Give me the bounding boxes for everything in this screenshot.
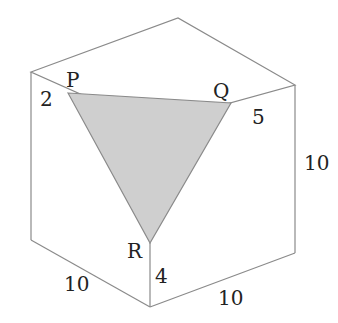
vertex-label-q: Q [213, 79, 229, 103]
vertex-label-p: P [66, 68, 79, 92]
label-right-height: 10 [304, 151, 329, 175]
cube-diagram: P Q R 2 5 4 10 10 10 [0, 0, 338, 323]
label-p-offset: 2 [40, 87, 53, 111]
label-bottom-left-length: 10 [64, 272, 89, 296]
vertex-label-r: R [127, 239, 143, 263]
label-r-offset: 4 [155, 264, 168, 288]
label-q-offset: 5 [252, 105, 265, 129]
triangle-pqr [68, 93, 231, 243]
label-bottom-right-length: 10 [218, 286, 243, 310]
